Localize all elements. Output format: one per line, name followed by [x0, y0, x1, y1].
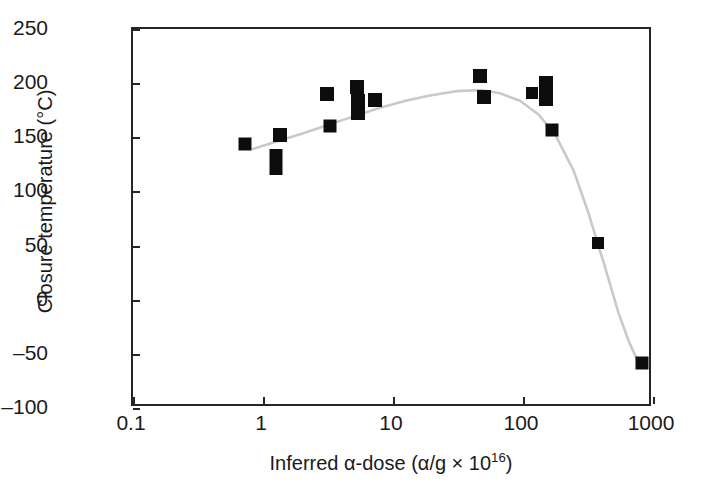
fit-curve: [253, 90, 638, 361]
y-axis-title: Closure temperature (°C): [34, 12, 57, 392]
data-point-marker: [636, 356, 649, 369]
y-axis-tick: [133, 300, 140, 302]
data-point-marker: [368, 93, 382, 107]
data-point-marker: [350, 80, 364, 94]
y-axis-tick: [133, 408, 140, 410]
y-axis-tick: [133, 246, 140, 248]
x-axis-title-suffix: ): [506, 452, 513, 474]
data-point-marker: [477, 90, 491, 104]
y-axis-tick: [133, 83, 140, 85]
x-axis-tick-label: 0.1: [116, 412, 145, 433]
plot-area: [131, 27, 651, 406]
y-axis-tick: [133, 354, 140, 356]
x-axis-tick: [133, 397, 135, 404]
x-axis-title-exponent: 16: [491, 450, 506, 465]
data-point-marker: [539, 76, 553, 106]
y-axis-tick: [133, 29, 140, 31]
data-point-marker: [546, 123, 559, 136]
x-axis-tick-label: 1000: [628, 412, 675, 433]
x-axis-title: Inferred α-dose (α/g × 1016): [131, 452, 651, 475]
x-axis-tick: [523, 397, 525, 404]
x-axis-tick-label: 1: [255, 412, 267, 433]
x-axis-tick: [393, 397, 395, 404]
y-axis-tick: [133, 137, 140, 139]
data-point-marker: [320, 87, 334, 101]
data-point-marker: [239, 137, 252, 150]
data-point-marker: [473, 69, 487, 83]
data-point-marker: [273, 128, 287, 142]
x-axis-tick: [653, 397, 655, 404]
closure-temperature-scatter-figure: –100–50050100150200250 0.11101001000 Inf…: [0, 0, 708, 501]
x-axis-title-prefix: Inferred α-dose (α/g × 10: [270, 452, 492, 474]
data-point-marker: [324, 120, 337, 133]
data-point-marker: [526, 87, 538, 99]
x-axis-tick-label: 100: [503, 412, 538, 433]
y-axis-tick: [133, 191, 140, 193]
x-axis-tick: [263, 397, 265, 404]
data-point-marker: [592, 237, 604, 249]
data-layer: [133, 29, 649, 404]
data-point-marker: [351, 94, 365, 120]
y-axis-tick-label: –100: [0, 396, 48, 417]
data-point-marker: [269, 149, 282, 175]
x-axis-tick-label: 10: [379, 412, 402, 433]
